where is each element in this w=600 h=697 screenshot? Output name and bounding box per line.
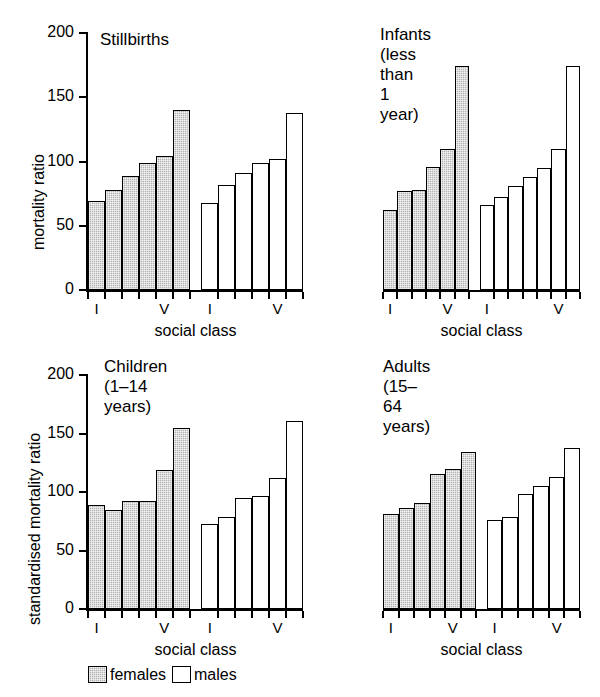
x-tick — [268, 292, 270, 299]
y-tick — [79, 491, 88, 493]
bar-males-I — [201, 524, 218, 609]
y-axis-title: mortality ratio — [30, 154, 48, 250]
x-tick-label: V — [439, 620, 467, 635]
y-tick — [79, 161, 88, 163]
x-tick — [251, 611, 253, 618]
bar-males-V — [549, 477, 565, 609]
x-tick-label: I — [196, 620, 224, 635]
x-tick — [550, 292, 552, 299]
x-tick-label: V — [264, 301, 292, 316]
x-tick — [138, 292, 140, 299]
x-tick — [172, 611, 174, 618]
x-tick-label: V — [264, 620, 292, 635]
bar-males-IV — [252, 496, 269, 609]
x-tick — [454, 292, 456, 299]
x-tick — [138, 611, 140, 618]
x-tick — [493, 292, 495, 299]
x-tick-label: V — [150, 620, 178, 635]
mortality-by-social-class-figure: Stillbirths050100150200IVIVsocial classm… — [0, 0, 600, 697]
x-tick — [548, 611, 550, 618]
y-tick — [79, 608, 88, 610]
bar-males-IV — [252, 163, 269, 290]
x-tick-label: V — [543, 620, 571, 635]
bar-males-III — [518, 494, 534, 609]
x-axis-title: social class — [88, 641, 303, 659]
x-tick — [234, 292, 236, 299]
x-tick-label: I — [473, 301, 501, 316]
y-tick — [79, 374, 88, 376]
x-tick — [155, 611, 157, 618]
bar-males-V+ — [551, 149, 565, 290]
bar-females-II — [105, 510, 122, 609]
x-tick — [413, 611, 415, 618]
bar-females-III — [412, 190, 426, 290]
x-tick — [285, 292, 287, 299]
plot-area-adults: IVIVsocial class — [383, 375, 580, 609]
bar-males-I — [480, 205, 494, 290]
x-tick — [439, 292, 441, 299]
x-tick-label: I — [82, 620, 110, 635]
x-tick — [425, 292, 427, 299]
legend-item-females: females — [88, 666, 166, 683]
plot-area-stillbirths: 050100150200IVIVsocial class — [88, 33, 303, 290]
x-tick — [501, 611, 503, 618]
bar-males-V+ — [286, 113, 303, 290]
x-tick — [285, 611, 287, 618]
y-tick — [79, 550, 88, 552]
bar-females-III — [122, 176, 139, 290]
x-tick — [579, 292, 581, 299]
bar-males-II — [218, 517, 235, 609]
bar-females-III — [122, 501, 139, 609]
x-axis-title: social class — [383, 322, 580, 340]
legend-item-males: males — [172, 666, 237, 683]
x-tick — [398, 611, 400, 618]
bar-females-V+ — [455, 66, 469, 290]
x-tick-label: I — [196, 301, 224, 316]
x-tick — [429, 611, 431, 618]
x-tick — [579, 611, 581, 618]
bar-males-V — [537, 168, 551, 290]
bar-females-V — [156, 470, 173, 609]
y-tick — [79, 225, 88, 227]
x-tick — [517, 611, 519, 618]
bar-females-II — [397, 191, 411, 290]
x-tick — [475, 611, 477, 618]
bar-males-V — [269, 159, 286, 290]
x-tick — [104, 292, 106, 299]
x-tick-label: I — [481, 620, 509, 635]
x-tick — [444, 611, 446, 618]
y-axis-title: standardised mortality ratio — [26, 433, 44, 625]
x-tick-label: I — [376, 301, 404, 316]
x-tick — [460, 611, 462, 618]
y-tick-label: 150 — [24, 88, 74, 104]
x-tick — [121, 292, 123, 299]
bar-males-V+ — [564, 448, 580, 609]
x-tick — [189, 611, 191, 618]
x-tick-label: V — [150, 301, 178, 316]
legend-label-females: females — [110, 667, 166, 683]
bar-females-II — [105, 190, 122, 290]
y-tick-label: 0 — [24, 281, 74, 297]
x-tick — [565, 292, 567, 299]
x-tick — [382, 611, 384, 618]
x-tick — [104, 611, 106, 618]
bar-males-III — [508, 186, 522, 290]
bar-males-II — [218, 185, 235, 290]
bar-females-I — [383, 514, 399, 609]
bar-males-undefined — [566, 66, 580, 290]
x-tick — [172, 292, 174, 299]
bar-males-I — [201, 203, 218, 290]
bar-females-IV — [139, 501, 156, 609]
x-tick — [234, 611, 236, 618]
legend-swatch-females-icon — [88, 666, 107, 683]
legend-swatch-males-icon — [172, 666, 191, 683]
bar-females-V — [445, 469, 461, 609]
bar-females-IV — [430, 474, 446, 609]
y-tick — [79, 433, 88, 435]
x-tick — [532, 611, 534, 618]
bar-females-II — [399, 508, 415, 609]
y-tick-label: 200 — [24, 366, 74, 382]
bar-females-V+ — [173, 428, 190, 609]
plot-area-children: 050100150200IVIVsocial class — [88, 375, 303, 609]
x-tick — [87, 292, 89, 299]
